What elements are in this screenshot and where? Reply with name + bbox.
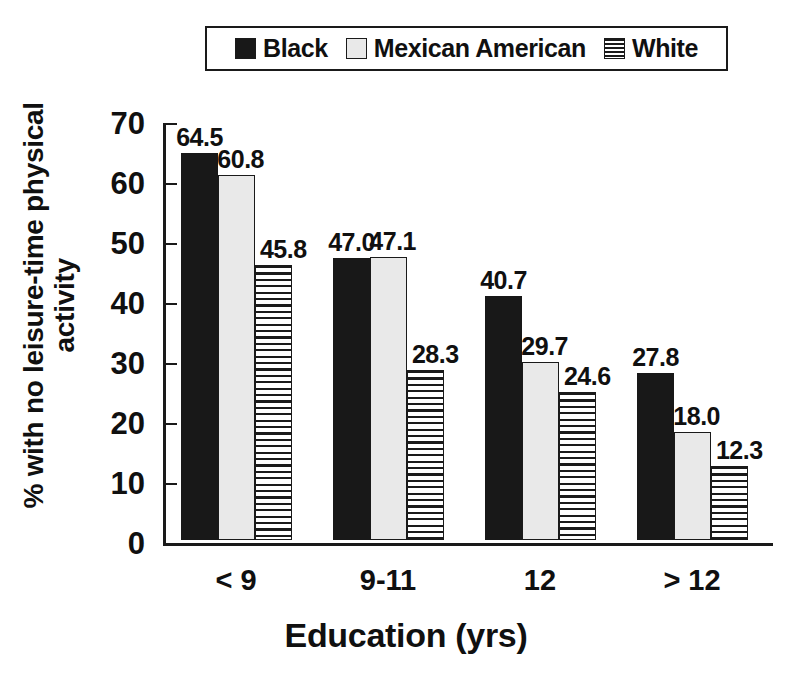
- plot-area: 0 10 20 30 40 50 60 70: [163, 123, 773, 543]
- bar-value-lt9-black: 64.5: [176, 125, 223, 150]
- bar-group-9-11: 47.0 47.1 28.3: [333, 120, 444, 540]
- bar-12-black: 40.7: [485, 296, 522, 540]
- bar-group-lt9: 64.5 60.8 45.8: [181, 120, 292, 540]
- y-tick-label-30: 30: [111, 348, 145, 379]
- bar-chart-figure: Black Mexican American White 0 10 20: [0, 0, 812, 695]
- y-axis-title: % with no leisure-time physical activity: [18, 70, 81, 540]
- y-tick-label-20: 20: [111, 408, 145, 439]
- legend-entry-black: Black: [226, 36, 337, 61]
- bar-value-gt12-mexican-american: 18.0: [673, 404, 720, 429]
- bar-value-gt12-white: 12.3: [716, 438, 763, 463]
- bar-value-gt12-black: 27.8: [632, 345, 679, 370]
- y-axis-title-line-2: activity: [49, 70, 80, 540]
- x-category-label-lt9: < 9: [215, 566, 256, 595]
- y-tick-label-50: 50: [111, 228, 145, 259]
- bar-lt9-white: 45.8: [255, 265, 292, 540]
- bar-lt9-mexican-american: 60.8: [218, 175, 255, 540]
- bar-gt12-white: 12.3: [711, 466, 748, 540]
- y-tick-label-70: 70: [111, 108, 145, 139]
- bar-value-9-11-white: 28.3: [412, 342, 459, 367]
- light-gray-swatch-icon: [346, 38, 367, 59]
- bar-gt12-black: 27.8: [637, 373, 674, 540]
- solid-black-swatch-icon: [235, 38, 256, 59]
- bar-group-gt12: 27.8 18.0 12.3: [637, 120, 748, 540]
- x-axis-line: [163, 543, 773, 546]
- bar-value-lt9-white: 45.8: [260, 237, 307, 262]
- bar-value-lt9-mexican-american: 60.8: [217, 147, 264, 172]
- bar-group-12: 40.7 29.7 24.6: [485, 120, 596, 540]
- y-tick-label-40: 40: [111, 288, 145, 319]
- x-axis-title: Education (yrs): [0, 616, 812, 655]
- legend-label-mexican-american: Mexican American: [374, 36, 586, 61]
- bar-value-9-11-black: 47.0: [328, 230, 375, 255]
- bar-9-11-black: 47.0: [333, 258, 370, 540]
- legend-label-black: Black: [263, 36, 328, 61]
- bar-12-mexican-american: 29.7: [522, 362, 559, 540]
- chart-legend: Black Mexican American White: [205, 26, 728, 71]
- bar-value-9-11-mexican-american: 47.1: [369, 229, 416, 254]
- legend-entry-mexican-american: Mexican American: [337, 36, 595, 61]
- bar-value-12-mexican-american: 29.7: [521, 334, 568, 359]
- horizontal-stripe-swatch-icon: [604, 38, 625, 59]
- bar-value-12-white: 24.6: [564, 364, 611, 389]
- bar-9-11-mexican-american: 47.1: [370, 257, 407, 540]
- y-tick-label-0: 0: [128, 528, 145, 559]
- y-axis-title-line-1: % with no leisure-time physical: [18, 70, 49, 540]
- y-axis-line: [163, 123, 166, 544]
- x-category-label-9-11: 9-11: [360, 566, 416, 595]
- bar-gt12-mexican-american: 18.0: [674, 432, 711, 540]
- legend-entry-white: White: [595, 36, 707, 61]
- y-tick-label-60: 60: [111, 168, 145, 199]
- bar-12-white: 24.6: [559, 392, 596, 540]
- bar-lt9-black: 64.5: [181, 153, 218, 540]
- bar-9-11-white: 28.3: [407, 370, 444, 540]
- x-category-label-12: 12: [524, 566, 556, 595]
- y-tick-label-10: 10: [111, 468, 145, 499]
- legend-label-white: White: [632, 36, 698, 61]
- bar-value-12-black: 40.7: [480, 268, 527, 293]
- x-category-label-gt12: > 12: [663, 566, 720, 595]
